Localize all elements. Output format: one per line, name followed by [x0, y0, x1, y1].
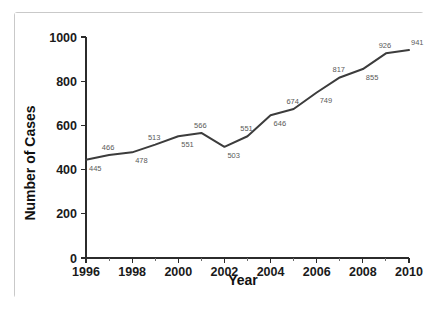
data-point-label: 513: [148, 133, 161, 142]
data-point-label: 817: [333, 65, 346, 74]
chart-frame: 02004006008001000 1996199820002002200420…: [14, 12, 424, 298]
y-axis-title: Number of Cases: [22, 105, 38, 220]
y-axis-tick-label: 200: [56, 207, 77, 221]
data-point-label: 551: [181, 140, 194, 149]
data-point-label: 445: [89, 164, 102, 173]
y-axis-tick-label: 800: [56, 75, 77, 89]
data-point-label: 478: [135, 156, 148, 165]
data-point-label: 551: [240, 124, 253, 133]
y-axis-tick-label: 400: [56, 163, 77, 177]
data-point-label: 466: [102, 143, 115, 152]
data-point-label: 926: [379, 41, 392, 50]
x-axis-tick-label: 2004: [257, 265, 285, 279]
x-axis-tick-label: 1998: [118, 265, 146, 279]
y-axis-tick-label: 600: [56, 119, 77, 133]
data-point-label: 674: [286, 97, 299, 106]
data-point-label: 646: [274, 119, 287, 128]
x-axis-tick-label: 1996: [72, 265, 100, 279]
x-axis-title: Year: [228, 272, 258, 288]
y-axis-tick-label: 0: [70, 252, 77, 266]
data-point-label: 855: [366, 73, 379, 82]
y-axis-tick-label: 1000: [49, 31, 77, 45]
x-axis-tick-label: 2008: [349, 265, 377, 279]
line-chart: 02004006008001000 1996199820002002200420…: [15, 13, 425, 299]
data-point-label: 941: [411, 38, 424, 47]
x-axis-tick-label: 2000: [164, 265, 192, 279]
x-axis-tick-label: 2010: [395, 265, 423, 279]
x-axis-tick-label: 2006: [303, 265, 331, 279]
data-point-label: 503: [227, 151, 240, 160]
data-point-label: 749: [320, 96, 333, 105]
data-point-label: 566: [194, 121, 207, 130]
